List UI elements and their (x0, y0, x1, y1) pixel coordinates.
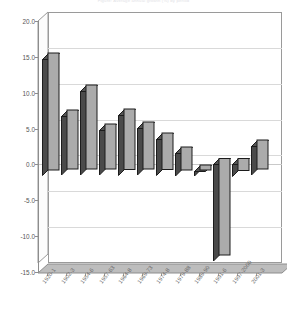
x-tick-label: 1964-8 (117, 267, 133, 285)
x-tick-label: 1902-3 (60, 267, 76, 285)
x-tick-label: 1991-6 (212, 267, 228, 285)
category-axis: 1920-1 1902-3 1954-6 1957-63 1964-8 1969… (0, 0, 287, 325)
x-tick-label: 1974-8 (155, 267, 171, 285)
x-tick-label: 1920-1 (41, 267, 57, 285)
x-tick-label: 1989-90 (193, 264, 211, 284)
x-tick-label: 1969-73 (136, 264, 154, 284)
x-tick-label: 1979-88 (174, 264, 192, 284)
x-tick-label: 1954-6 (79, 267, 95, 285)
x-tick-label: 1957-63 (98, 264, 116, 284)
x-tick-label: 2001-3 (250, 267, 266, 285)
chart-container: Figure: Average annual growth (%) by per… (0, 0, 287, 325)
